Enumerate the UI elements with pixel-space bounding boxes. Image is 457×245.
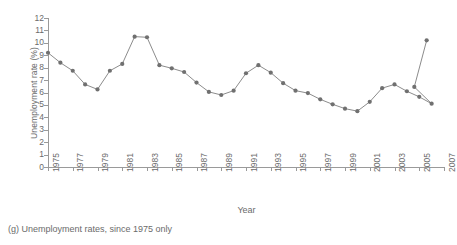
series-line-unemployment-rate [48, 37, 432, 112]
series-markers-unemployment-rate [46, 35, 434, 114]
data-point-marker [120, 62, 124, 66]
data-point-marker [194, 80, 198, 84]
data-point-marker [244, 71, 248, 75]
data-point-marker [46, 51, 50, 55]
data-point-marker [293, 89, 297, 93]
x-axis-title: Year [48, 205, 445, 215]
data-point-marker [355, 109, 359, 113]
data-point-marker [232, 89, 236, 93]
data-point-marker [331, 102, 335, 106]
data-point-marker [269, 71, 273, 75]
data-point-marker [133, 35, 137, 39]
data-point-marker [318, 97, 322, 101]
data-point-marker [219, 93, 223, 97]
data-point-marker [170, 66, 174, 70]
data-point-marker [157, 63, 161, 67]
data-point-marker [405, 89, 409, 93]
data-point-marker [256, 63, 260, 67]
data-point-marker [182, 70, 186, 74]
data-point-marker [145, 35, 149, 39]
data-point-marker [412, 85, 416, 89]
data-point-marker [95, 87, 99, 91]
data-point-marker [58, 61, 62, 65]
data-point-marker [207, 90, 211, 94]
data-point-marker [108, 69, 112, 73]
chart-figure: Unemployment rate (%) 0123456789101112 1… [0, 0, 457, 245]
data-point-marker [83, 82, 87, 86]
data-point-marker [306, 91, 310, 95]
data-point-marker [392, 82, 396, 86]
data-point-marker [380, 86, 384, 90]
data-point-marker [430, 102, 434, 106]
data-point-marker [281, 81, 285, 85]
data-point-marker [71, 69, 75, 73]
data-point-marker [368, 100, 372, 104]
data-point-marker [417, 95, 421, 99]
figure-caption: (g) Unemployment rates, since 1975 only [8, 224, 172, 234]
data-point-marker [343, 107, 347, 111]
data-point-marker [425, 38, 429, 42]
